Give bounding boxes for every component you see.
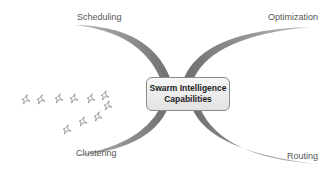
- arc-optimization: [184, 27, 310, 78]
- center-title-line1: Swarm Intelligence: [150, 83, 227, 94]
- arc-scheduling: [74, 25, 170, 78]
- center-title-line2: Capabilities: [164, 94, 212, 105]
- branch-label-optimization: Optimization: [268, 12, 318, 22]
- center-node: Swarm Intelligence Capabilities: [146, 77, 230, 111]
- branch-label-scheduling: Scheduling: [77, 12, 122, 22]
- branch-label-clustering: Clustering: [76, 148, 117, 158]
- star-swarm-icons: [21, 90, 114, 136]
- branch-label-routing: Routing: [287, 151, 318, 161]
